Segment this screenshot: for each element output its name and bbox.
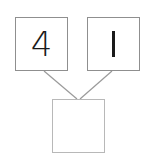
part-box-right: 1 (87, 17, 140, 71)
connector-left (44, 71, 77, 99)
part-value-right-glyph (112, 31, 115, 57)
connector-right (80, 71, 112, 99)
part-box-left: 4 (15, 17, 68, 71)
part-value-left: 4 (31, 27, 53, 61)
whole-box[interactable] (52, 99, 105, 153)
